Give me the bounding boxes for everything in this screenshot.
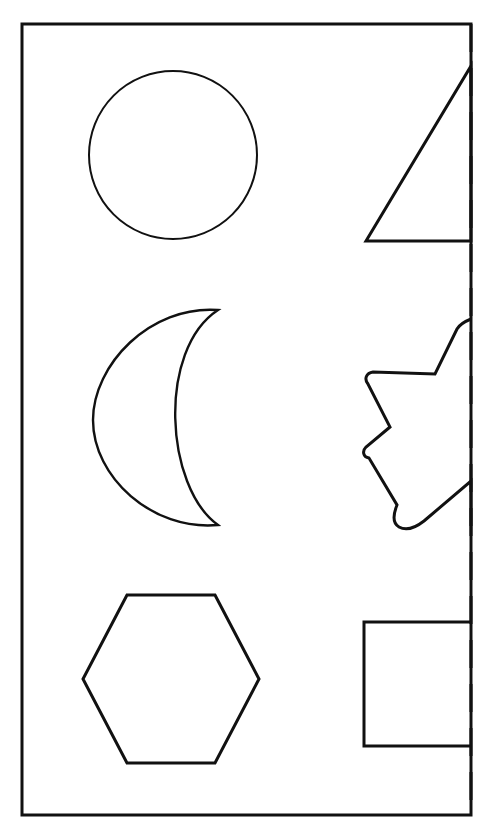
shape-crescent-moon: [93, 310, 218, 526]
worksheet-canvas: Shapes Cut-Out Worksheet Circle Right Tr…: [0, 0, 490, 834]
shape-circle: [89, 71, 257, 239]
shape-star: [364, 319, 471, 529]
shape-rectangle: [364, 622, 471, 746]
shapes-drawing: [0, 0, 490, 834]
shape-triangle: [366, 66, 471, 241]
shape-hexagon: [83, 595, 259, 763]
